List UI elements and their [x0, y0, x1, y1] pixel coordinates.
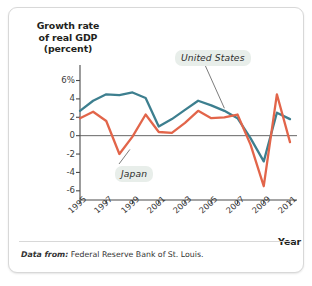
source-prefix: Data from:	[21, 250, 68, 259]
source-note: Data from: Federal Reserve Bank of St. L…	[21, 250, 203, 259]
y-tick-label-3: 0	[48, 130, 75, 140]
y-tick-label-0: 6%	[48, 75, 75, 85]
y-tick-label-4: -2	[48, 149, 75, 159]
chart-figure-card: Growth rate of real GDP (percent) 6%420-…	[8, 7, 304, 273]
source-text: Federal Reserve Bank of St. Louis.	[71, 250, 204, 259]
y-tick-label-2: 2	[48, 112, 75, 122]
series-label-united-states: United States	[175, 50, 251, 66]
series-label-japan: Japan	[115, 166, 153, 182]
line-chart-plot	[9, 8, 305, 274]
series-layer	[80, 92, 290, 186]
y-tick-label-5: -4	[48, 167, 75, 177]
leader-line-united-states	[205, 65, 224, 108]
y-tick-label-1: 4	[48, 93, 75, 103]
annotation-leader-lines	[119, 65, 224, 164]
source-divider	[19, 241, 295, 242]
series-line-japan	[80, 94, 290, 186]
series-line-united-states	[80, 92, 290, 161]
y-tick-label-6: -6	[48, 185, 75, 195]
